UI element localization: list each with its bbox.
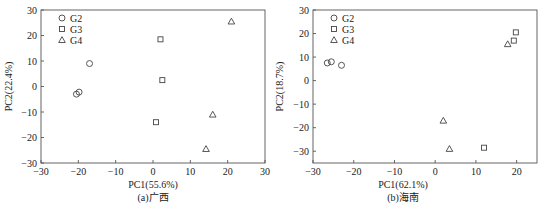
data-point-g4 — [446, 146, 453, 152]
x-tick-label: −20 — [71, 166, 87, 177]
y-axis-label: PC2(18.7%) — [274, 62, 286, 112]
x-tick-label: −30 — [305, 166, 321, 177]
panel-a-guangxi: −30−20−100102030 −30−20−100102030 G2G3G4… — [3, 5, 270, 205]
y-tick-label: −10 — [21, 107, 37, 118]
y-tick-label: 30 — [27, 5, 37, 16]
y-tick-label: 0 — [32, 81, 37, 92]
data-point-g4 — [203, 146, 210, 152]
legend-marker-g3 — [60, 27, 65, 32]
data-point-g3 — [158, 37, 163, 42]
x-axis-label: PC1(62.1%) — [378, 179, 428, 191]
legend-label-g2: G2 — [342, 13, 354, 24]
legend-label-g4: G4 — [70, 35, 82, 46]
data-point-g4 — [228, 18, 235, 24]
legend-marker-g2 — [331, 15, 337, 21]
data-point-g2 — [328, 59, 334, 65]
x-tick-label: 20 — [223, 166, 233, 177]
legend-marker-g3 — [332, 27, 337, 32]
data-points — [73, 18, 234, 151]
data-point-g2 — [87, 61, 93, 67]
legend-marker-g2 — [59, 15, 65, 21]
panel-b-hainan: −30−20−1001020 −30−20−100102030 G2G3G4 P… — [274, 5, 537, 205]
x-tick-label: −10 — [387, 166, 403, 177]
x-tick-label: 10 — [471, 166, 481, 177]
legend-label-g4: G4 — [342, 35, 354, 46]
legend-marker-g4 — [59, 37, 66, 43]
x-tick-label: 0 — [151, 166, 156, 177]
legend: G2G3G4 — [331, 13, 355, 46]
x-tick-label: 20 — [512, 166, 522, 177]
data-point-g2 — [324, 60, 330, 66]
legend-label-g2: G2 — [70, 13, 82, 24]
data-point-g3 — [513, 30, 518, 35]
data-point-g3 — [511, 38, 516, 43]
x-tick-label: 10 — [185, 166, 195, 177]
y-tick-label: −20 — [293, 122, 309, 133]
y-tick-label: 30 — [299, 5, 309, 16]
panel-caption: (a)广西 — [137, 192, 168, 204]
data-point-g4 — [504, 41, 511, 47]
y-tick-label: 20 — [27, 30, 37, 41]
y-tick-label: −10 — [293, 99, 309, 110]
data-point-g3 — [482, 145, 487, 150]
data-point-g4 — [209, 111, 216, 117]
panel-caption: (b)海南 — [387, 191, 419, 204]
x-tick-label: 0 — [433, 166, 438, 177]
y-tick-label: 10 — [27, 56, 37, 67]
y-tick-label: −20 — [21, 132, 37, 143]
data-point-g2 — [339, 62, 345, 68]
y-tick-label: 0 — [304, 75, 309, 86]
pca-scatter-figure: −30−20−100102030 −30−20−100102030 G2G3G4… — [0, 0, 540, 211]
y-tick-label: 10 — [299, 52, 309, 63]
y-tick-label: −30 — [21, 158, 37, 169]
data-points — [324, 30, 518, 152]
legend-marker-g4 — [331, 37, 338, 43]
data-point-g4 — [440, 117, 447, 123]
x-tick-label: −20 — [346, 166, 362, 177]
data-point-g3 — [160, 78, 165, 83]
x-axis-label: PC1(55.6%) — [128, 179, 178, 191]
x-tick-label: −10 — [108, 166, 124, 177]
y-axis-label: PC2(22.4%) — [3, 62, 15, 112]
y-tick-label: −30 — [293, 146, 309, 157]
data-point-g3 — [153, 120, 158, 125]
legend: G2G3G4 — [59, 13, 83, 46]
x-tick-label: 30 — [260, 166, 270, 177]
y-tick-label: 20 — [299, 28, 309, 39]
legend-label-g3: G3 — [70, 24, 82, 35]
legend-label-g3: G3 — [342, 24, 354, 35]
